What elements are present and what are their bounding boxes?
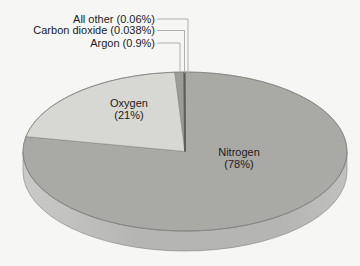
slice-label-oxygen-name: Oxygen: [69, 97, 189, 109]
slice-label-oxygen: Oxygen (21%): [69, 97, 189, 121]
slice-label-nitrogen: Nitrogen (78%): [179, 146, 299, 170]
pie-chart-figure: All other (0.06%) Carbon dioxide (0.038%…: [0, 0, 360, 266]
callout-label-argon: Argon (0.9%): [90, 37, 155, 49]
slice-label-nitrogen-value: (78%): [179, 158, 299, 170]
slice-label-oxygen-value: (21%): [69, 109, 189, 121]
slice-label-nitrogen-name: Nitrogen: [179, 146, 299, 158]
callout-label-carbon-dioxide: Carbon dioxide (0.038%): [33, 24, 155, 36]
pie-chart-canvas: [0, 0, 360, 266]
